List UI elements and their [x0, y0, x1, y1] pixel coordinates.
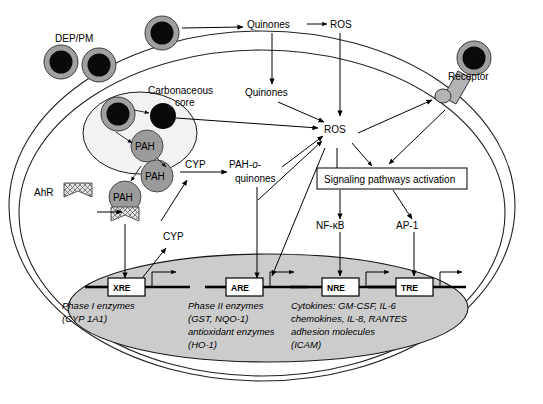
gene-text: (CYP 1A1)	[62, 313, 107, 324]
gene-text: antioxidant enzymes	[188, 326, 275, 337]
carbonaceous-core-particle	[150, 103, 176, 129]
signaling-box-label: Signaling pathways activation	[324, 174, 455, 185]
label-pah-vesicle: PAH	[135, 141, 155, 152]
label-ros-inside: ROS	[324, 124, 346, 135]
re-label-xre: XRE	[113, 283, 131, 293]
label-ahr: AhR	[34, 187, 53, 198]
gene-text: (GST, NQO-1)	[188, 313, 248, 324]
label-receptor: Receptor	[448, 71, 489, 82]
gene-text: chemokines, IL-8, RANTES	[291, 313, 408, 324]
label-cyp-bottom: CYP	[163, 231, 184, 242]
ahr-receptor-free	[64, 183, 92, 197]
internalized-particle	[101, 97, 135, 131]
label-pah-cytoplasm-2: PAH	[113, 192, 133, 203]
dep-pm-particle	[82, 48, 116, 82]
ahr-receptor-bound	[111, 207, 139, 221]
label-quinones-outside: Quinones	[247, 19, 290, 30]
label-quinones-inside: Quinones	[245, 87, 288, 98]
gene-text: (HO-1)	[188, 339, 217, 350]
label-ap1: AP-1	[396, 220, 419, 231]
re-label-nre: NRE	[327, 283, 345, 293]
label-nfkb: NF-κB	[316, 220, 345, 231]
dep-pm-particle	[44, 45, 78, 79]
label-pah-o-quinones-line2: quinones	[235, 173, 276, 184]
pah-o-quinones-dash: -	[258, 159, 261, 170]
dep-pm-particles	[44, 16, 179, 82]
label-dep-pm: DEP/PM	[55, 33, 93, 44]
gene-text: Phase I enzymes	[62, 300, 135, 311]
label-carbonaceous-core-line2: core	[175, 97, 195, 108]
diagram-canvas: Signaling pathways activation XRE ARE NR…	[0, 0, 543, 404]
label-carbonaceous-core-line1: Carbonaceous	[148, 85, 213, 96]
dep-pm-particle	[145, 16, 179, 50]
pah-o-quinones-prefix: PAH-	[229, 159, 252, 170]
label-pah-o-quinones: PAH-o-	[229, 159, 261, 170]
signaling-pathways-box[interactable]: Signaling pathways activation	[317, 168, 467, 189]
re-label-tre: TRE	[401, 283, 418, 293]
re-label-are: ARE	[231, 283, 249, 293]
gene-text: adhesion molecules	[291, 326, 375, 337]
gene-text: Phase II enzymes	[188, 300, 264, 311]
gene-text: (ICAM)	[291, 339, 321, 350]
label-cyp-top: CYP	[185, 159, 206, 170]
gene-text: Cytokines: GM-CSF, IL-6	[291, 300, 397, 311]
label-pah-cytoplasm-1: PAH	[145, 171, 165, 182]
label-ros-outside: ROS	[330, 19, 352, 30]
